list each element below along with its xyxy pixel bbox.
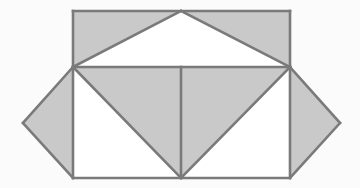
geometric-figure-svg xyxy=(0,0,360,188)
geometric-figure-canvas xyxy=(0,0,360,188)
